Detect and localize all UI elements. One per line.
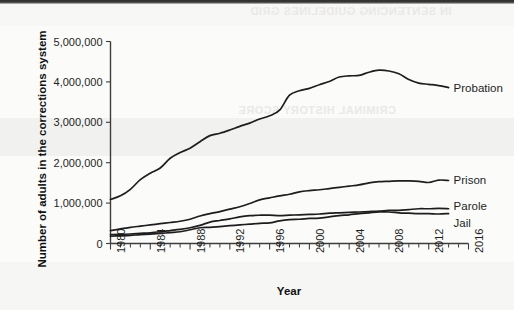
y-tick-label: 1,000,000 bbox=[0, 197, 103, 209]
x-tick-label: 1996 bbox=[274, 228, 286, 252]
series-label-probation: Probation bbox=[454, 82, 503, 94]
x-tick-label: 2008 bbox=[393, 228, 405, 252]
axis-ticks bbox=[106, 42, 469, 250]
x-tick-label: 1992 bbox=[234, 228, 246, 252]
series-label-parole: Parole bbox=[454, 200, 487, 212]
y-tick-label: 2,000,000 bbox=[0, 157, 103, 169]
x-axis-title: Year bbox=[110, 285, 468, 297]
x-tick-label: 1984 bbox=[155, 228, 167, 252]
series-line-prison bbox=[111, 180, 449, 231]
y-tick-label: 4,000,000 bbox=[0, 76, 103, 88]
x-tick-label: 2016 bbox=[473, 228, 485, 252]
x-tick-label: 1980 bbox=[115, 228, 127, 252]
chart-figure: IN SENTENCING GUIDELINES GRID CRIMINAL H… bbox=[0, 0, 514, 310]
y-axis-title: Number of adults in the corrections syst… bbox=[36, 29, 48, 269]
x-tick-label: 2000 bbox=[314, 228, 326, 252]
x-tick-label: 2004 bbox=[354, 228, 366, 252]
x-tick-label: 1988 bbox=[195, 228, 207, 252]
series-lines bbox=[111, 70, 449, 236]
x-tick-label: 2012 bbox=[433, 228, 445, 252]
y-tick-label: 5,000,000 bbox=[0, 36, 103, 48]
y-tick-label: 3,000,000 bbox=[0, 116, 103, 128]
series-label-prison: Prison bbox=[454, 174, 487, 186]
y-tick-label: 0 bbox=[0, 238, 103, 250]
series-label-jail: Jail bbox=[454, 217, 471, 229]
